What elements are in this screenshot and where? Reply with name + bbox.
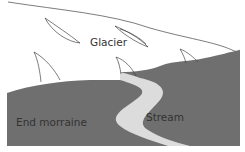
end-moraine-ground	[7, 50, 240, 146]
glacier-label: Glacier	[90, 36, 128, 48]
crevasse-1	[45, 18, 80, 43]
ice-tooth-1	[34, 52, 60, 82]
stream-label: Stream	[146, 111, 184, 123]
glacier-diagram: Glacier End morraine Stream	[0, 0, 245, 152]
end-moraine-label: End morraine	[16, 116, 87, 128]
